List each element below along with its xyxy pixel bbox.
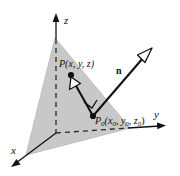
x-axis-label: x	[10, 144, 16, 156]
point-P-dot	[68, 72, 74, 78]
normal-vector-label: n	[116, 65, 122, 76]
plane-normal-vector-figure: z y x P(x, y, z) P0(x0, y0, z0) n	[0, 0, 180, 176]
shaded-plane-region	[26, 38, 130, 155]
point-P-label: P(x, y, z)	[58, 58, 95, 70]
z-axis-arrowhead-icon	[53, 13, 60, 22]
y-axis-label: y	[153, 108, 159, 120]
z-axis-label: z	[63, 14, 69, 26]
y-axis-arrowhead-icon	[157, 122, 166, 129]
y-axis-solid-outer	[128, 126, 160, 128]
figure-canvas: z y x P(x, y, z) P0(x0, y0, z0) n	[0, 0, 180, 176]
